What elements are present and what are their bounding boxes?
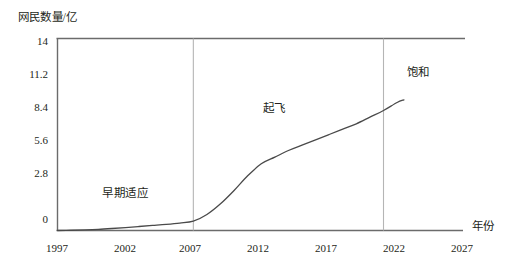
y-tick-label-2-8: 2.8 (10, 168, 48, 179)
x-tick-label-2002: 2002 (100, 243, 150, 254)
x-tick-label-2012: 2012 (233, 243, 283, 254)
y-tick-label-8-4: 8.4 (10, 102, 48, 113)
x-tick-label-2017: 2017 (301, 243, 351, 254)
y-tick-label-0: 0 (10, 214, 48, 225)
x-tick-label-2022: 2022 (369, 243, 419, 254)
phase-label-takeoff: 起飞 (244, 103, 304, 115)
x-tick-label-2027: 2027 (437, 243, 487, 254)
phase-label-early-adaptation: 早期适应 (85, 188, 165, 200)
y-tick-label-5-6: 5.6 (10, 135, 48, 146)
x-tick-label-1997: 1997 (32, 243, 82, 254)
chart-canvas (0, 0, 518, 276)
y-axis-title: 网民数量/亿 (18, 12, 77, 24)
x-axis-title: 年份 (472, 221, 494, 233)
data-curve-internet-users (58, 100, 404, 231)
y-tick-label-14: 14 (10, 36, 48, 47)
x-tick-label-2007: 2007 (165, 243, 215, 254)
phase-label-saturation: 饱和 (388, 67, 448, 79)
y-tick-label-11-2: 11.2 (10, 69, 48, 80)
chart-container: 网民数量/亿 14 11.2 8.4 5.6 2.8 0 1997 2002 2… (0, 0, 518, 276)
